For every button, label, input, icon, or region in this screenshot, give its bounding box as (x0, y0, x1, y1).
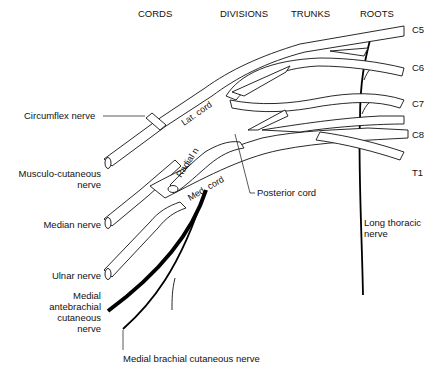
label-musculocutaneous-2: nerve (77, 179, 101, 190)
medial-brachial-branch (172, 278, 175, 310)
radial-nerve-end (168, 186, 178, 193)
header-roots: ROOTS (360, 8, 394, 19)
median-nerve-end (105, 218, 111, 229)
label-medial-antebrachial-3: cutaneous (57, 312, 101, 323)
label-medial-brachial-cutaneous: Medial brachial cutaneous nerve (123, 353, 260, 364)
musculocutaneous-nerve-end (105, 158, 111, 169)
label-medial-antebrachial-4: nerve (77, 323, 101, 334)
label-t1: T1 (412, 167, 423, 178)
label-medial-antebrachial-1: Medial (73, 290, 101, 301)
label-median-nerve: Median nerve (43, 219, 101, 230)
header-trunks: TRUNKS (291, 8, 330, 19)
brachial-plexus-diagram: CORDS DIVISIONS TRUNKS ROOTS C5 C6 C7 C8… (0, 0, 438, 374)
ulnar-nerve-end (105, 269, 111, 280)
label-musculocutaneous-1: Musculo-cutaneous (19, 168, 102, 179)
c5-c6-junction (330, 48, 368, 56)
label-c8: C8 (412, 129, 424, 140)
c7-root (230, 94, 404, 112)
label-c6: C6 (412, 62, 424, 73)
label-long-thoracic-2: nerve (364, 228, 388, 239)
label-medial-antebrachial-2: antebrachial (49, 301, 101, 312)
header-divisions: DIVISIONS (220, 8, 268, 19)
label-c5: C5 (412, 24, 424, 35)
label-ulnar-nerve: Ulnar nerve (52, 270, 101, 281)
label-c7: C7 (412, 98, 424, 109)
label-circumflex-nerve: Circumflex nerve (24, 110, 95, 121)
header-cords: CORDS (138, 8, 172, 19)
label-long-thoracic-1: Long thoracic (364, 217, 421, 228)
label-posterior-cord: Posterior cord (257, 187, 316, 198)
